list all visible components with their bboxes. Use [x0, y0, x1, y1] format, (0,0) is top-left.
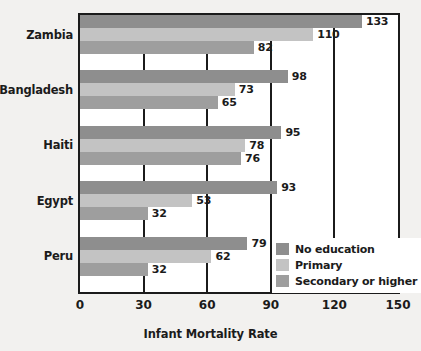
bar	[80, 126, 281, 139]
x-axis-title: Infant Mortality Rate	[0, 327, 421, 341]
chart-figure: 13311082987365957876935332796232 ZambiaB…	[0, 0, 421, 351]
legend-label: No education	[295, 243, 375, 256]
legend-item: Secondary or higher	[276, 273, 417, 289]
legend-item: No education	[276, 241, 417, 257]
bar-value-label: 65	[218, 96, 237, 109]
bar	[80, 263, 148, 276]
legend-swatch-icon	[276, 275, 289, 287]
bar	[80, 83, 235, 96]
bar-value-label: 53	[192, 194, 211, 207]
bar	[80, 28, 313, 41]
bar-value-label: 73	[235, 83, 254, 96]
bar-value-label: 79	[247, 237, 266, 250]
bar-value-label: 133	[362, 15, 388, 28]
bar	[80, 41, 254, 54]
legend-swatch-icon	[276, 243, 289, 255]
bar	[80, 250, 211, 263]
bar	[80, 207, 148, 220]
x-tick-label: 150	[385, 298, 410, 312]
bar	[80, 70, 288, 83]
x-tick-label: 120	[322, 298, 347, 312]
category-label-zambia: Zambia	[0, 28, 73, 42]
legend-swatch-icon	[276, 259, 289, 271]
bar-value-label: 78	[245, 139, 264, 152]
x-tick-label: 60	[199, 298, 216, 312]
bar	[80, 139, 245, 152]
bar	[80, 237, 247, 250]
x-tick-label: 90	[262, 298, 279, 312]
category-label-peru: Peru	[0, 249, 73, 263]
category-label-bangladesh: Bangladesh	[0, 83, 73, 97]
bar-value-label: 62	[211, 250, 230, 263]
category-label-haiti: Haiti	[0, 138, 73, 152]
legend-label: Secondary or higher	[295, 275, 417, 288]
bar-value-label: 110	[313, 28, 339, 41]
legend-item: Primary	[276, 257, 417, 273]
legend-label: Primary	[295, 259, 342, 272]
bar-value-label: 95	[281, 126, 300, 139]
bar-value-label: 93	[277, 181, 296, 194]
bar-value-label: 32	[148, 207, 167, 220]
category-label-egypt: Egypt	[0, 194, 73, 208]
x-tick-label: 30	[135, 298, 152, 312]
bar	[80, 96, 218, 109]
chart-legend: No educationPrimarySecondary or higher	[272, 238, 421, 293]
bar	[80, 15, 362, 28]
bar-value-label: 82	[254, 41, 273, 54]
bar	[80, 181, 277, 194]
bar	[80, 152, 241, 165]
bar-value-label: 32	[148, 263, 167, 276]
bar-value-label: 98	[288, 70, 307, 83]
bar-value-label: 76	[241, 152, 260, 165]
x-tick-label: 0	[76, 298, 84, 312]
bar	[80, 194, 192, 207]
